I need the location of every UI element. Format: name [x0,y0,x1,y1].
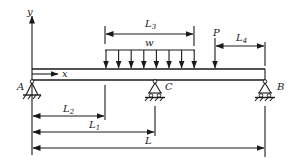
dimension-l: L [33,135,264,148]
dimension-l2: L2 [33,103,104,116]
support-b: B [255,80,284,101]
dimension-l4-label: L4 [235,32,247,45]
dimension-l-label: L [144,135,152,146]
dimension-l1: L1 [33,119,154,132]
point-load: P [212,27,220,68]
beam-diagram: y x w L3 P L4 [0,0,295,168]
dimension-l2-label: L2 [62,103,75,116]
y-axis-label: y [26,6,33,17]
support-a: A [16,80,41,99]
distributed-load: w [105,37,195,68]
support-a-label: A [16,81,24,92]
point-load-label: P [212,27,220,38]
dimension-l3-label: L3 [144,18,157,31]
distributed-load-label: w [145,37,154,48]
dimension-l1-label: L1 [88,119,100,132]
dimension-l4: L4 [216,32,265,66]
support-c: C [145,80,173,101]
support-c-label: C [165,81,173,92]
support-b-label: B [276,81,284,92]
x-axis-label: x [62,68,68,79]
